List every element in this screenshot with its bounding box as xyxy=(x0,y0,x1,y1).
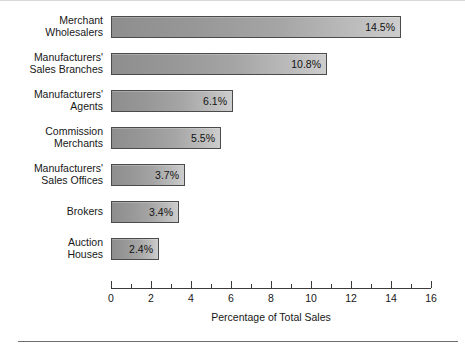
bar-value-label: 3.4% xyxy=(149,206,173,218)
chart-row: Merchant Wholesalers14.5% xyxy=(0,14,465,40)
chart-row: Manufacturers' Agents6.1% xyxy=(0,88,465,114)
chart-bar[interactable]: 3.7% xyxy=(111,164,185,186)
bar-value-label: 6.1% xyxy=(203,95,227,107)
category-label: Auction Houses xyxy=(0,236,103,261)
category-label: Merchant Wholesalers xyxy=(0,14,103,39)
chart-row: Brokers3.4% xyxy=(0,199,465,225)
chart-figure: Merchant Wholesalers14.5%Manufacturers' … xyxy=(0,0,465,354)
bar-value-label: 5.5% xyxy=(191,132,215,144)
category-label: Commission Merchants xyxy=(0,125,103,150)
bar-value-label: 14.5% xyxy=(365,21,395,33)
category-label: Manufacturers' Agents xyxy=(0,88,103,113)
plot-area: Merchant Wholesalers14.5%Manufacturers' … xyxy=(0,0,465,354)
chart-bar[interactable]: 3.4% xyxy=(111,201,179,223)
chart-bar[interactable]: 2.4% xyxy=(111,238,159,260)
bottom-divider-rule xyxy=(18,341,458,342)
chart-bar[interactable]: 5.5% xyxy=(111,127,221,149)
chart-bar[interactable]: 14.5% xyxy=(111,16,401,38)
category-label: Manufacturers' Sales Branches xyxy=(0,51,103,76)
chart-row: Manufacturers' Sales Branches10.8% xyxy=(0,51,465,77)
bar-value-label: 2.4% xyxy=(129,243,153,255)
category-label: Manufacturers' Sales Offices xyxy=(0,162,103,187)
bar-value-label: 3.7% xyxy=(155,169,179,181)
chart-row: Manufacturers' Sales Offices3.7% xyxy=(0,162,465,188)
category-label: Brokers xyxy=(0,205,103,217)
bar-value-label: 10.8% xyxy=(291,58,321,70)
chart-bar[interactable]: 10.8% xyxy=(111,53,327,75)
chart-row: Commission Merchants5.5% xyxy=(0,125,465,151)
chart-row: Auction Houses2.4% xyxy=(0,236,465,262)
chart-bar[interactable]: 6.1% xyxy=(111,90,233,112)
